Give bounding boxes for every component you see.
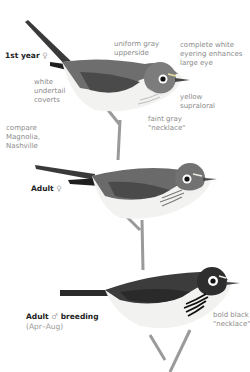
annotation-yellow-supraloral: yellow supraloral [180,93,215,111]
annotation-faint-gray-necklace: faint gray "necklace" [148,115,185,133]
male-symbol: ♂ [51,312,58,321]
age-label-text: 1st year [5,51,40,60]
annotation-white-undertail-coverts: white undertail coverts [34,78,65,105]
female-symbol: ♀ [56,184,62,193]
bird-illustration-adult-female [0,150,250,270]
annotation-compare-note: compare Magnolia, Nashville [6,124,40,151]
female-symbol: ♀ [42,51,48,60]
age-label-1st-year: 1st year ♀ [5,51,48,61]
age-label-text: Adult [31,184,54,193]
annotation-uniform-gray-upperside: uniform gray upperside [114,40,159,58]
age-label-adult-male-breeding: Adult ♂ breeding (Apr–Aug) [26,312,99,332]
annotation-complete-white-eyering: complete white eyering enhances large ey… [180,41,242,68]
season-range: (Apr–Aug) [26,322,99,332]
annotation-bold-black-necklace: bold black "necklace" [213,311,250,329]
age-label-text: Adult [26,312,49,321]
age-label-suffix: breeding [61,312,99,321]
age-label-adult-female: Adult ♀ [31,184,62,194]
